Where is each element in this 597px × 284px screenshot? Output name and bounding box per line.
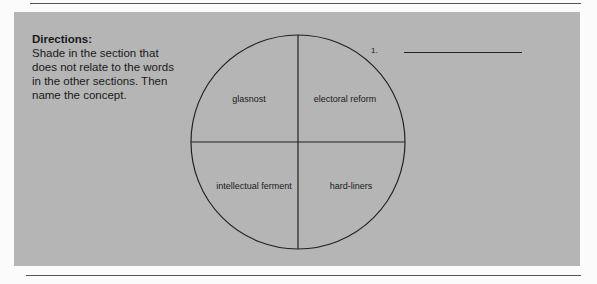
bottom-rule — [26, 275, 581, 276]
section-bottom-right[interactable] — [298, 142, 405, 249]
section-bottom-left[interactable] — [191, 142, 298, 249]
section-label-top-right: electoral reform — [314, 94, 377, 104]
section-top-left[interactable] — [191, 35, 298, 142]
section-label-bottom-left: intellectual ferment — [216, 181, 292, 191]
answer-number: 1. — [371, 46, 378, 55]
answer-blank-line[interactable] — [404, 52, 522, 53]
section-top-right[interactable] — [298, 35, 405, 142]
section-label-top-left: glasnost — [232, 94, 266, 104]
concept-circle-diagram: glasnost electoral reform intellectual f… — [0, 0, 597, 284]
section-label-bottom-right: hard-liners — [330, 181, 373, 191]
